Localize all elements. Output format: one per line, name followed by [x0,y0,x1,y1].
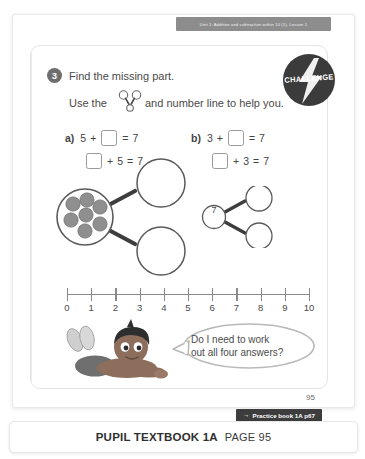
speech-bubble-line-2: out all four answers? [191,346,307,359]
number-line-tick-10 [309,288,310,301]
number-line-tick-4 [164,288,165,301]
number-line-tick-7 [236,288,237,301]
equation-b1-total: 7 [259,132,265,144]
activity-card: 3 Find the missing part. Use the and num… [30,45,328,389]
part-whole-model-icon [117,90,143,112]
equation-a1-plus: + [90,132,96,144]
unit-banner-text: Unit 1: Addition and subtraction within … [200,22,307,27]
speech-bubble: Do I need to work out all four answers? [169,321,321,371]
part-whole-model-large [43,158,203,276]
number-line-tick-2 [115,288,116,301]
number-line-label-1: 1 [82,302,100,313]
equation-b1-plus: + [217,132,223,144]
question-number-badge: 3 [47,68,62,83]
number-line-tick-0 [67,288,68,301]
unit-banner: Unit 1: Addition and subtraction within … [176,17,331,31]
arrow-right-icon: → [243,412,250,419]
question-instruction-line-2-after: and number line to help you. [145,97,284,109]
footer-book-title: PUPIL TEXTBOOK 1A [96,431,218,443]
answer-box-b1[interactable] [228,130,244,146]
number-line-tick-6 [212,288,213,301]
number-line-tick-9 [285,288,286,301]
number-line-label-0: 0 [58,302,76,313]
practice-book-link-text: Practice book 1A p67 [253,412,315,419]
part-whole-small-whole-value: 7 [203,205,225,215]
number-line: 012345678910 [67,286,309,316]
answer-box-a1[interactable] [101,130,117,146]
question-instruction-line-1: Find the missing part. [69,70,174,82]
number-line-label-4: 4 [155,302,173,313]
equation-b1-left: 3 [207,132,213,144]
sheet-page-number: 95 [306,393,315,402]
number-line-label-8: 8 [252,302,270,313]
number-line-tick-3 [140,288,141,301]
equation-a1: a) 5 + = 7 [65,130,140,146]
footer-page-label: PAGE 95 [225,431,271,443]
answer-box-b2[interactable] [212,153,228,169]
equation-b1-equals: = [249,132,255,144]
equation-a1-equals: = [122,132,128,144]
number-line-tick-1 [91,288,92,301]
equation-a1-left: 5 [80,132,86,144]
number-line-label-2: 2 [106,302,124,313]
question-instruction-line-2-before: Use the [69,97,107,109]
challenge-badge: CHALLENGE [283,54,335,106]
part-whole-model-small: 7 [199,186,309,248]
number-line-label-10: 10 [300,302,318,313]
number-line-label-6: 6 [203,302,221,313]
speech-bubble-line-1: Do I need to work [191,333,307,346]
equation-b1: b) 3 + = 7 [191,130,267,146]
number-line-tick-5 [188,288,189,301]
equation-b-label: b) [191,132,201,144]
equation-b2: + 3 = 7 [209,153,271,169]
equation-b2-plus: + [233,155,239,167]
equation-b2-right: 3 [243,155,249,167]
number-line-label-9: 9 [276,302,294,313]
equation-b2-equals: = [253,155,259,167]
footer-bar: PUPIL TEXTBOOK 1A PAGE 95 [9,421,358,453]
equation-b2-total: 7 [263,155,269,167]
child-lying-down-illustration [53,314,183,388]
equation-a1-total: 7 [132,132,138,144]
speech-bubble-text: Do I need to work out all four answers? [191,333,307,359]
number-line-label-3: 3 [131,302,149,313]
card-left-rule [31,52,32,382]
number-line-tick-8 [261,288,262,301]
number-line-label-7: 7 [227,302,245,313]
number-line-label-5: 5 [179,302,197,313]
equation-a-label: a) [65,132,74,144]
